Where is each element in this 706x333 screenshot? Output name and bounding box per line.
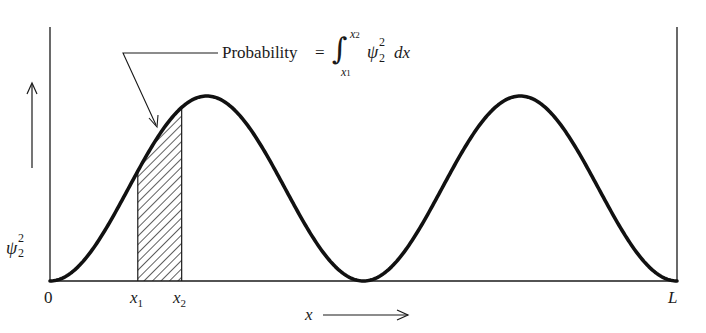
differential-dx: dx (394, 44, 410, 61)
x1-symbol: x (130, 288, 138, 307)
upper-limit: x2 (350, 28, 360, 40)
x1-subscript: 1 (138, 297, 144, 309)
annotation-leader-arrow-icon (123, 53, 218, 127)
probability-annotation: Probability = ∫ x2 x1 ψ 2 2 dx (222, 30, 442, 66)
y-label-superscript: 2 (18, 232, 24, 244)
y-label-subscript: 2 (18, 247, 24, 259)
y-axis-label: ψ 2 2 (6, 232, 36, 262)
lower-limit-subscript: 1 (346, 68, 351, 78)
x2-symbol: x (173, 288, 181, 307)
y-label-symbol: ψ (6, 239, 17, 257)
x-axis-arrow-icon (323, 310, 408, 320)
origin-label: 0 (44, 289, 53, 306)
x2-subscript: 2 (181, 297, 187, 309)
equals-sign: = (315, 44, 325, 61)
integrand-subscript: 2 (379, 52, 385, 64)
end-label-L: L (668, 289, 677, 306)
probability-text: Probability (222, 44, 298, 61)
integrand-superscript: 2 (379, 36, 385, 48)
integrand-symbol: ψ (367, 43, 378, 61)
integral-sign-icon: ∫ (332, 34, 348, 64)
lower-limit: x1 (341, 66, 351, 78)
x-axis-label: x (305, 306, 313, 323)
upper-limit-subscript: 2 (355, 30, 360, 40)
x1-label: x1 (130, 289, 143, 309)
y-axis-arrow-icon (27, 83, 37, 168)
x2-label: x2 (173, 289, 186, 309)
